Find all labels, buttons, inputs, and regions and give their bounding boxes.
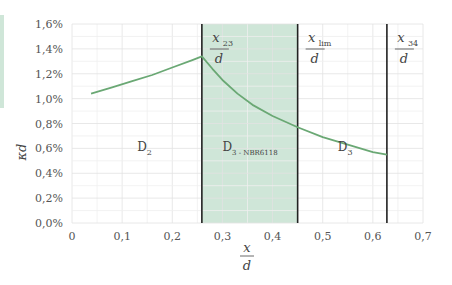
y-tick-label: 1,4% bbox=[35, 43, 63, 56]
y-tick-label: 0,0% bbox=[35, 217, 63, 230]
x-tick-label: 0,6 bbox=[364, 230, 382, 243]
y-tick-label: 0,8% bbox=[35, 118, 63, 131]
y-axis-label: κd bbox=[14, 144, 29, 162]
x-tick-label: 0,4 bbox=[264, 230, 282, 243]
svg-text:x: x bbox=[243, 240, 251, 255]
svg-text:34: 34 bbox=[408, 39, 418, 48]
svg-text:x: x bbox=[212, 30, 220, 45]
y-tick-label: 1,6% bbox=[35, 18, 63, 31]
svg-text:x: x bbox=[397, 30, 405, 45]
y-tick-label: 1,2% bbox=[35, 68, 63, 81]
region-label: D2 bbox=[137, 140, 152, 157]
svg-text:d: d bbox=[243, 258, 251, 273]
y-axis-ticks: 0,0%0,2%0,4%0,6%0,8%1,0%1,2%1,4%1,6% bbox=[35, 18, 63, 230]
x-tick-label: 0,5 bbox=[314, 230, 332, 243]
region-label: D3 bbox=[338, 140, 353, 157]
y-tick-label: 0,6% bbox=[35, 142, 63, 155]
x-tick-label: 0,3 bbox=[214, 230, 232, 243]
svg-text:x: x bbox=[308, 30, 316, 45]
y-tick-label: 0,4% bbox=[35, 167, 63, 180]
svg-text:κd: κd bbox=[14, 144, 29, 162]
x-tick-label: 0,1 bbox=[113, 230, 131, 243]
y-tick-label: 0,2% bbox=[35, 192, 63, 205]
svg-text:lim: lim bbox=[319, 39, 332, 48]
chart: x23dxlimdx34d 00,10,20,30,40,50,60,7 0,0… bbox=[0, 0, 452, 285]
svg-text:23: 23 bbox=[223, 39, 233, 48]
y-tick-label: 1,0% bbox=[35, 93, 63, 106]
left-edge-band bbox=[0, 15, 4, 108]
svg-text:d: d bbox=[400, 51, 408, 66]
svg-text:d: d bbox=[215, 51, 223, 66]
x-tick-label: 0,2 bbox=[164, 230, 182, 243]
x-tick-label: 0,7 bbox=[414, 230, 432, 243]
grid bbox=[72, 24, 423, 223]
x-axis-label: x d bbox=[240, 240, 254, 273]
x-tick-label: 0 bbox=[69, 230, 76, 243]
svg-text:d: d bbox=[310, 51, 318, 66]
